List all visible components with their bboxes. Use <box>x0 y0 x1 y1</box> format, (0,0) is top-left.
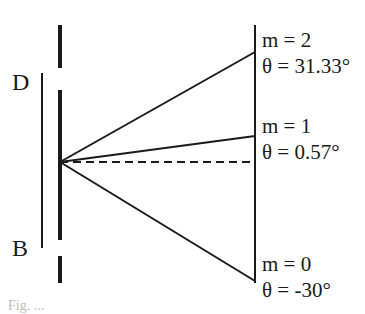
ray-m0 <box>60 162 255 281</box>
order-m1-label: m = 1 <box>262 116 311 137</box>
order-m2-angle: θ = 31.33° <box>262 56 350 77</box>
caption-fragment: Fig. ... <box>8 298 44 314</box>
ray-m2 <box>60 52 255 162</box>
order-m1-angle: θ = 0.57° <box>262 142 340 163</box>
order-m0-label: m = 0 <box>262 254 311 275</box>
plate-label-b: B <box>12 236 28 260</box>
ray-m1 <box>60 136 255 162</box>
order-m2-label: m = 2 <box>262 30 311 51</box>
order-m0-angle: θ = -30° <box>262 280 331 301</box>
plate-label-d: D <box>12 70 29 94</box>
